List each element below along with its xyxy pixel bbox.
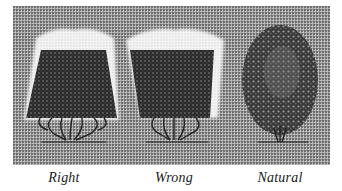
caption-right: Right xyxy=(14,170,114,186)
shrub-wrong-illustration xyxy=(120,0,230,165)
shrub-natural-illustration xyxy=(232,0,332,165)
shrub-right-illustration xyxy=(14,0,124,165)
caption-wrong: Wrong xyxy=(124,170,224,186)
caption-natural: Natural xyxy=(230,170,330,186)
